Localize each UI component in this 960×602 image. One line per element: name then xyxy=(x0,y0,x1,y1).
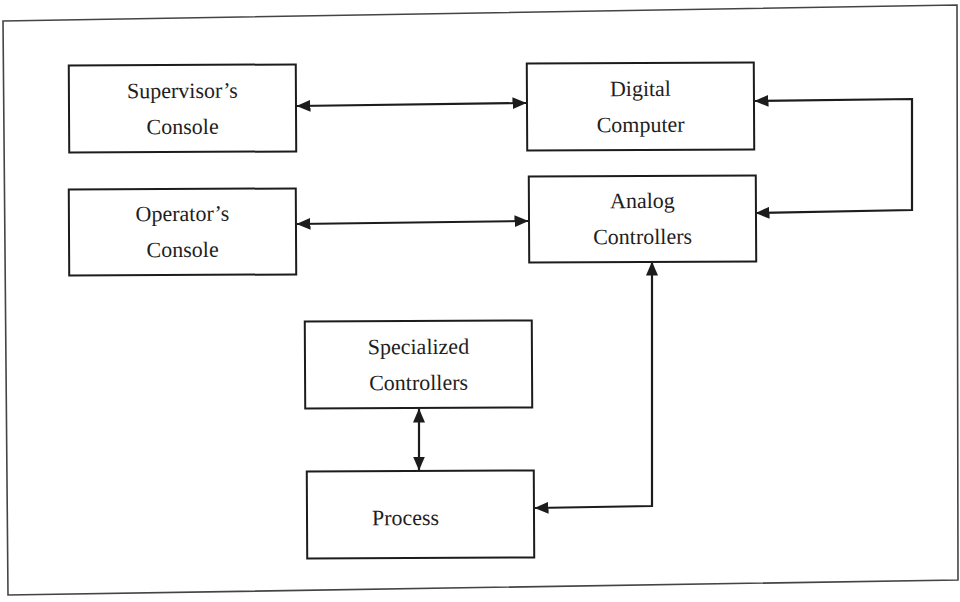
block-label: Supervisor’s xyxy=(127,72,238,109)
loop-digital-analog xyxy=(755,99,912,213)
block-process: Process xyxy=(306,469,535,559)
loop-analog-process xyxy=(535,262,652,508)
block-label: Console xyxy=(146,232,218,268)
block-label: Specialized xyxy=(368,328,470,365)
diagram-canvas: Supervisor’s Console Operator’s Console … xyxy=(0,0,960,602)
block-label: Controllers xyxy=(369,364,468,401)
block-label: Analog xyxy=(610,183,675,219)
block-supervisor-console: Supervisor’s Console xyxy=(68,63,297,153)
block-specialized-controllers: Specialized Controllers xyxy=(304,319,533,409)
arrow-supervisor-digital xyxy=(297,103,526,106)
block-label: Process xyxy=(372,499,439,535)
block-digital-computer: Digital Computer xyxy=(526,61,755,151)
block-label: Controllers xyxy=(593,219,692,256)
block-label: Digital xyxy=(610,70,671,106)
block-operator-console: Operator’s Console xyxy=(68,187,297,276)
arrow-operator-analog xyxy=(297,221,528,224)
block-label: Computer xyxy=(597,106,685,142)
block-label: Console xyxy=(146,108,218,144)
block-label: Operator’s xyxy=(135,196,229,232)
block-analog-controllers: Analog Controllers xyxy=(528,174,757,263)
